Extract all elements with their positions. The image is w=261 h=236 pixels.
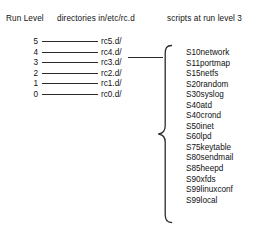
runlevel-directory: rc3.d/ [101,57,121,68]
runlevel-number: 4 [28,47,38,58]
script-item: S90xfds [186,175,233,186]
script-item: S20random [186,80,233,91]
runlevel-directory: rc4.d/ [101,47,121,58]
runlevel-directory: rc5.d/ [101,36,121,47]
curly-brace-icon [156,44,174,224]
runlevel-row: 5rc5.d/ [0,36,261,47]
runlevel-directory: rc0.d/ [101,89,121,100]
heading-run-level: Run Level [6,14,44,23]
runlevel-leader-line [42,62,98,63]
runlevel-directory: rc1.d/ [101,78,121,89]
script-item: S80sendmail [186,153,233,164]
runlevel-number: 2 [28,68,38,79]
script-item: S99linuxconf [186,185,233,196]
script-list: S10networkS11portmapS15netfsS20randomS30… [186,48,233,206]
script-item: S40atd [186,101,233,112]
runlevel-number: 1 [28,78,38,89]
runlevel-directory: rc2.d/ [101,68,121,79]
script-item: S30syslog [186,90,233,101]
runlevel-leader-line [42,41,98,42]
heading-directories: directories in/etc/rc.d [57,14,135,23]
runlevel-leader-line [42,73,98,74]
script-item: S50inet [186,122,233,133]
runlevel-leader-line [42,52,98,53]
script-item: S85heepd [186,164,233,175]
heading-scripts: scripts at run level 3 [167,14,242,23]
runlevel-number: 5 [28,36,38,47]
script-item: S10network [186,48,233,59]
script-item: S75keytable [186,143,233,154]
runlevel-diagram: Run Level directories in/etc/rc.d script… [0,0,261,236]
runlevel-leader-line [42,83,98,84]
script-item: S15netfs [186,69,233,80]
runlevel-number: 0 [28,89,38,100]
runlevel-number: 3 [28,57,38,68]
script-item: S40crond [186,111,233,122]
script-item: S99local [186,196,233,207]
script-item: S11portmap [186,59,233,70]
runlevel-leader-line [42,94,98,95]
script-item: S60lpd [186,132,233,143]
